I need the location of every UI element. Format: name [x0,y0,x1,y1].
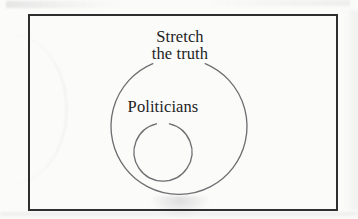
inner-set-label: Politicians [104,98,222,115]
outer-set-label: Stretch the truth [119,28,241,62]
scanned-figure-page: Stretch the truth Politicians [0,0,358,219]
outer-set-label-line-1: Stretch [119,28,241,45]
inner-set-circle [134,124,192,181]
outer-set-circle [111,64,247,195]
outer-set-label-line-2: the truth [119,45,241,62]
